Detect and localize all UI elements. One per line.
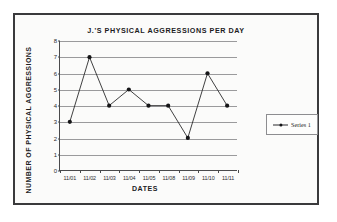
x-tick-label: 11/03 (103, 175, 116, 181)
data-point-marker (87, 55, 91, 59)
x-tick-label: 11/05 (143, 175, 156, 181)
legend-entry-series-1: Series 1 (267, 115, 317, 134)
x-tick-mark (198, 170, 199, 173)
y-tick-label: 7 (54, 54, 57, 60)
legend-swatch-icon (273, 122, 288, 128)
x-tick-mark (60, 170, 61, 173)
chart-screenshot: J.'S PHYSICAL AGGRESSIONS PER DAY NUMBER… (0, 0, 337, 222)
x-tick-label: 11/08 (162, 175, 175, 181)
data-point-marker (68, 120, 72, 124)
x-tick-label: 11/01 (64, 175, 77, 181)
x-tick-label: 11/11 (222, 175, 234, 181)
y-tick-label: 3 (54, 119, 57, 125)
x-tick-mark (218, 170, 219, 173)
legend-label: Series 1 (291, 121, 311, 128)
figure-frame: J.'S PHYSICAL AGGRESSIONS PER DAY NUMBER… (13, 13, 319, 205)
plot-area: 876543210 11/0111/0211/0311/0411/0511/08… (59, 41, 237, 171)
series-polyline (70, 57, 227, 138)
x-tick-mark (119, 170, 120, 173)
x-tick-label: 11/02 (83, 175, 96, 181)
x-tick-mark (139, 170, 140, 173)
y-tick-label: 4 (54, 103, 57, 109)
x-tick-mark (100, 170, 101, 173)
data-point-marker (166, 104, 170, 108)
data-point-marker (127, 87, 131, 91)
y-tick-label: 8 (54, 38, 57, 44)
x-tick-label: 11/09 (182, 175, 195, 181)
data-point-marker (205, 71, 209, 75)
y-tick-label: 1 (54, 152, 57, 158)
data-point-marker (107, 104, 111, 108)
legend: Series 1 (266, 114, 318, 135)
y-tick-label: 6 (54, 71, 57, 77)
y-tick-label: 0 (54, 168, 57, 174)
data-point-marker (225, 104, 229, 108)
data-point-marker (146, 104, 150, 108)
x-tick-mark (238, 170, 239, 173)
x-tick-mark (179, 170, 180, 173)
x-tick-mark (80, 170, 81, 173)
y-tick-label: 2 (54, 136, 57, 142)
data-point-marker (186, 136, 190, 140)
y-tick-label: 5 (54, 87, 57, 93)
y-axis-title: NUMBER OF PHYSICAL AGGRESSIONS (25, 54, 32, 194)
x-axis-title: DATES (50, 185, 240, 192)
x-tick-label: 11/04 (123, 175, 136, 181)
series-line-series-1 (60, 41, 237, 170)
x-tick-mark (159, 170, 160, 173)
x-tick-label: 11/10 (202, 175, 215, 181)
chart-title: J.'S PHYSICAL AGGRESSIONS PER DAY (15, 26, 317, 35)
